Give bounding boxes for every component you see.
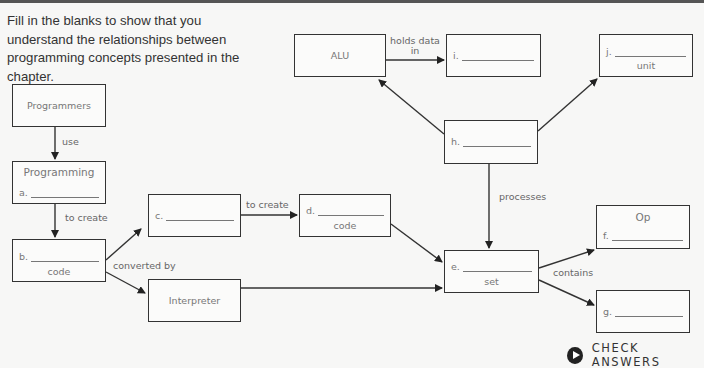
node-subtitle: code [300,220,390,231]
blank-b[interactable]: b. [19,251,99,262]
blank-c[interactable]: c. [155,210,234,221]
blank-f[interactable]: f. [603,230,683,241]
node-f: Op f. [596,205,690,249]
blank-a[interactable]: a. [19,187,99,198]
edge-label-to-create: to create [246,199,289,210]
blank-e[interactable]: e. [451,261,532,272]
edge-label-holds-data-in: holds data in [390,36,440,56]
node-programmers: Programmers [12,84,106,127]
play-icon [567,347,583,364]
node-j: j. unit [599,34,693,77]
blank-j[interactable]: j. [606,46,686,57]
node-d: d. code [299,194,391,237]
node-programming: Programming a. [12,161,106,204]
node-i: i. [446,34,541,77]
check-answers-button[interactable]: CHECK ANSWERS [567,341,704,368]
node-subtitle: code [13,266,105,277]
node-title: Interpreter [149,295,240,306]
node-title: Programming [13,166,105,178]
node-alu: ALU [294,34,386,77]
node-b: b. code [12,239,106,282]
edge-label-processes: processes [499,191,546,202]
node-interpreter: Interpreter [148,279,241,322]
edge-label-use: use [62,136,79,147]
node-title: Programmers [13,100,105,111]
edge-label-converted-by: converted by [113,260,176,271]
node-g: g. [596,290,690,333]
node-title: Op [597,211,689,223]
blank-d[interactable]: d. [306,205,384,216]
edge-label-contains: contains [553,267,593,278]
blank-h[interactable]: h. [451,136,531,147]
node-c: c. [148,194,241,237]
blank-g[interactable]: g. [603,306,683,317]
node-subtitle: set [445,276,538,287]
node-title: ALU [295,50,385,61]
node-e: e. set [444,250,539,293]
blank-i[interactable]: i. [453,50,534,61]
node-subtitle: unit [600,60,692,71]
node-h: h. [444,120,538,164]
edge-label-to-create: to create [65,212,108,223]
